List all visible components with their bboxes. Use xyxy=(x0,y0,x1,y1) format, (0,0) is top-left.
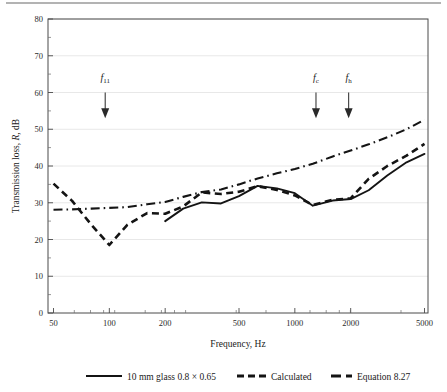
svg-text:Transmission loss, R, dB: Transmission loss, R, dB xyxy=(11,119,21,213)
annotation-fh-label: fh xyxy=(345,72,352,85)
legend-label-glass: 10 mm glass 0.8 × 0.65 xyxy=(127,372,216,382)
x-tick-label: 200 xyxy=(159,318,172,328)
legend-label-calculated: Calculated xyxy=(271,372,312,382)
y-axis-title: Transmission loss, R, dB xyxy=(11,119,21,213)
x-tick-label: 50 xyxy=(49,318,58,328)
series-calculated xyxy=(54,144,425,245)
series-10mm-glass xyxy=(165,154,424,221)
annotation-f11: f11 xyxy=(100,72,110,118)
annotation-fc: fc xyxy=(312,72,320,118)
y-tick-label: 70 xyxy=(35,51,44,61)
chart-legend: 10 mm glass 0.8 × 0.65 Calculated Equati… xyxy=(86,372,411,382)
x-tick-label: 2000 xyxy=(342,318,359,328)
y-tick-label: 40 xyxy=(35,161,44,171)
x-tick-label: 100 xyxy=(103,318,116,328)
legend-label-equation: Equation 8.27 xyxy=(357,372,411,382)
y-tick-label: 50 xyxy=(35,124,44,134)
x-axis-ticks xyxy=(54,308,425,313)
x-tick-label-5000: 5000 xyxy=(416,318,433,328)
x-tick-label: 1000 xyxy=(286,318,303,328)
x-axis-title: Frequency, Hz xyxy=(210,339,265,349)
y-tick-label: 60 xyxy=(35,88,44,98)
y-axis-title-prefix: Transmission loss, xyxy=(11,140,21,213)
annotation-fc-label: fc xyxy=(313,72,319,85)
y-tick-label: 20 xyxy=(35,235,44,245)
annotation-fh: fh xyxy=(345,72,353,118)
y-tick-label: 30 xyxy=(35,198,44,208)
gridlines-horizontal xyxy=(48,19,428,276)
y-axis-ticks xyxy=(48,19,53,313)
chart-canvas: 80 70 60 50 40 30 20 10 0 xyxy=(0,0,447,392)
y-tick-label: 0 xyxy=(39,308,43,318)
figure-container: 80 70 60 50 40 30 20 10 0 xyxy=(0,0,447,392)
x-tick-label: 500 xyxy=(233,318,246,328)
y-tick-label: 10 xyxy=(35,271,44,281)
annotation-f11-label: f11 xyxy=(100,72,110,85)
y-tick-label: 80 xyxy=(35,14,44,24)
y-tick-labels: 80 70 60 50 40 30 20 10 0 xyxy=(35,14,44,318)
y-axis-title-suffix: , dB xyxy=(11,119,21,135)
x-tick-labels: 50 100 200 500 1000 2000 5000 xyxy=(49,318,433,328)
